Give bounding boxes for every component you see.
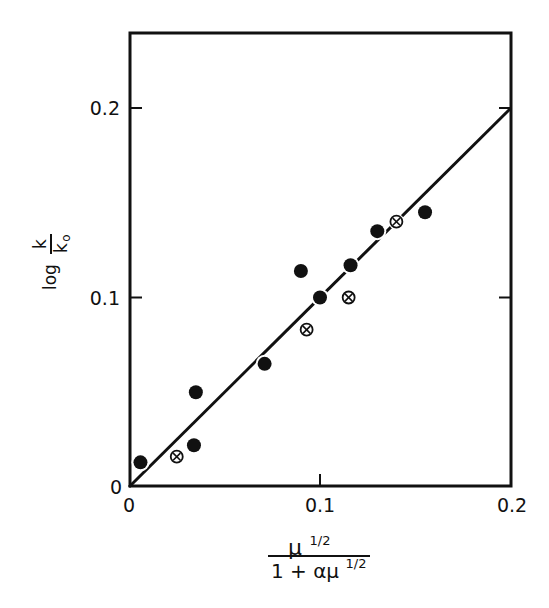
filled-circle-marker bbox=[258, 357, 272, 371]
filled-circle-marker bbox=[418, 205, 432, 219]
x-axis-label-denominator-sup: 1/2 bbox=[346, 556, 367, 571]
plot-frame bbox=[130, 33, 511, 486]
y-axis-label-denominator-sub: o bbox=[59, 234, 73, 241]
x-axis-label-numerator-sup: 1/2 bbox=[310, 533, 331, 548]
series-filled-circles bbox=[131, 203, 434, 471]
crossed-circle-marker bbox=[169, 449, 185, 465]
y-axis-label-denominator: k bbox=[51, 243, 71, 253]
x-tick-label-0.2: 0.2 bbox=[497, 494, 527, 516]
filled-circle-marker bbox=[133, 455, 147, 469]
filled-circle-marker bbox=[313, 291, 327, 305]
crossed-circle-marker bbox=[388, 214, 404, 230]
y-tick-label-0: 0 bbox=[110, 476, 122, 498]
filled-circle-marker bbox=[344, 258, 358, 272]
x-tick-label-0: 0 bbox=[123, 494, 135, 516]
x-axis-label-denominator: 1 + αμ bbox=[271, 559, 339, 583]
crossed-circle-marker bbox=[341, 290, 357, 306]
crossed-circle-marker bbox=[299, 322, 315, 338]
x-axis-label: μ 1/2 1 + αμ 1/2 bbox=[268, 533, 370, 583]
filled-circle-marker bbox=[187, 438, 201, 452]
filled-circle-marker bbox=[370, 224, 384, 238]
x-tick-label-0.1: 0.1 bbox=[305, 494, 335, 516]
y-axis-label: log k k o bbox=[30, 234, 73, 290]
y-axis-label-log: log bbox=[40, 264, 60, 290]
y-tick-label-0.1: 0.1 bbox=[90, 287, 120, 309]
chart-svg: 0.2 0.1 0 0 0.1 0.2 log k k o μ 1/2 1 + … bbox=[0, 0, 549, 608]
filled-circle-marker bbox=[189, 385, 203, 399]
chart: 0.2 0.1 0 0 0.1 0.2 log k k o μ 1/2 1 + … bbox=[0, 0, 549, 608]
filled-circle-marker bbox=[294, 264, 308, 278]
y-tick-label-0.2: 0.2 bbox=[90, 97, 120, 119]
y-axis-label-numerator: k bbox=[30, 239, 50, 249]
series-crossed-circles bbox=[169, 214, 405, 465]
